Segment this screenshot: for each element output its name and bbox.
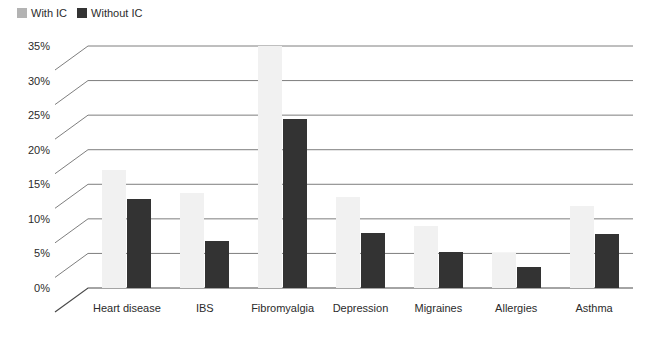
x-axis-tick-label: Migraines <box>399 302 477 315</box>
x-axis: Heart diseaseIBSFibromyalgiaDepressionMi… <box>0 0 652 340</box>
x-axis-tick-label: Asthma <box>555 302 633 315</box>
x-axis-tick-label: IBS <box>166 302 244 315</box>
bar-chart: With IC Without IC 0%5%10%15%20%25%30%35… <box>0 0 652 340</box>
x-axis-tick-label: Heart disease <box>88 302 166 315</box>
x-axis-tick-label: Depression <box>322 302 400 315</box>
x-axis-tick-label: Fibromyalgia <box>244 302 322 315</box>
x-axis-tick-label: Allergies <box>477 302 555 315</box>
